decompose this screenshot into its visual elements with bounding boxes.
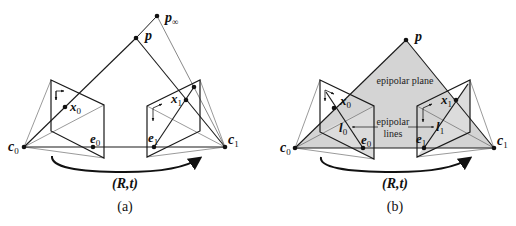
- point-c0: [22, 145, 27, 150]
- point-pinf-projection: [192, 85, 197, 90]
- label-e1: e1: [148, 130, 158, 147]
- point-c0-b: [293, 146, 298, 151]
- caption-a: (a): [117, 199, 133, 215]
- label-p-inf: p∞: [164, 10, 178, 27]
- panel-a: c0 c1 p p∞ x0 x1 e0 e1 (R,t) (a): [8, 10, 239, 215]
- point-p-b: [404, 38, 409, 43]
- label-x1: x1: [170, 91, 182, 108]
- point-c1: [223, 145, 228, 150]
- point-x0: [63, 105, 68, 110]
- epipolar-geometry-figure: c0 c1 p p∞ x0 x1 e0 e1 (R,t) (a): [0, 0, 516, 226]
- motion-arrow: [52, 156, 200, 172]
- point-x1: [184, 98, 189, 103]
- camera1-frustum: [147, 80, 225, 157]
- label-x0: x0: [69, 99, 82, 116]
- caption-b: (b): [387, 199, 404, 215]
- image-axes-right: [153, 104, 162, 121]
- ray-c0-p: [24, 38, 136, 147]
- point-c1-b: [492, 146, 497, 151]
- point-p: [134, 36, 139, 41]
- image-axes-left-b: [325, 90, 334, 101]
- label-p: p: [144, 28, 152, 43]
- label-c1: c1: [228, 132, 239, 149]
- panel-b: c0 c1 p x0 x1 e0 e1 l0 l1 epipolar plane…: [280, 29, 508, 215]
- label-e0: e0: [90, 131, 101, 148]
- motion-label-b: (R,t): [382, 176, 408, 192]
- image-axes-left: [56, 91, 64, 100]
- point-p-inf: [155, 14, 160, 19]
- epipolar-lines-label-1: epipolar: [377, 116, 410, 127]
- motion-arrow-b: [321, 157, 470, 172]
- motion-label: (R,t): [112, 176, 138, 192]
- epipolar-lines-label-2: lines: [384, 128, 403, 139]
- label-c1-b: c1: [497, 133, 508, 150]
- point-x1-b: [454, 98, 459, 103]
- label-c0: c0: [8, 139, 19, 156]
- label-c0-b: c0: [280, 140, 291, 157]
- epipolar-plane-label: epipolar plane: [377, 75, 434, 86]
- label-p-b: p: [414, 29, 422, 44]
- point-x0-b: [332, 106, 337, 111]
